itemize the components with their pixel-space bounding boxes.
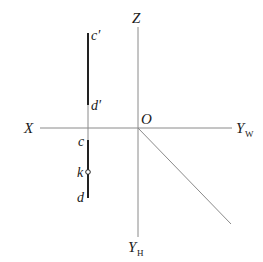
- label-c: c: [78, 134, 85, 149]
- point-k-marker: [86, 170, 91, 175]
- label-d-prime: d′: [91, 98, 102, 113]
- x-axis-label: X: [23, 120, 34, 136]
- projection-diagram: X Z O Y W Y H c′ d′ c k d: [0, 0, 263, 262]
- yh-axis-subscript: H: [137, 248, 144, 258]
- yw-axis-subscript: W: [245, 129, 254, 139]
- label-d: d: [77, 190, 85, 205]
- z-axis-label: Z: [132, 10, 141, 26]
- label-k: k: [77, 165, 84, 180]
- diagonal-45-line: [138, 128, 231, 224]
- label-c-prime: c′: [91, 28, 101, 43]
- origin-label: O: [141, 111, 152, 127]
